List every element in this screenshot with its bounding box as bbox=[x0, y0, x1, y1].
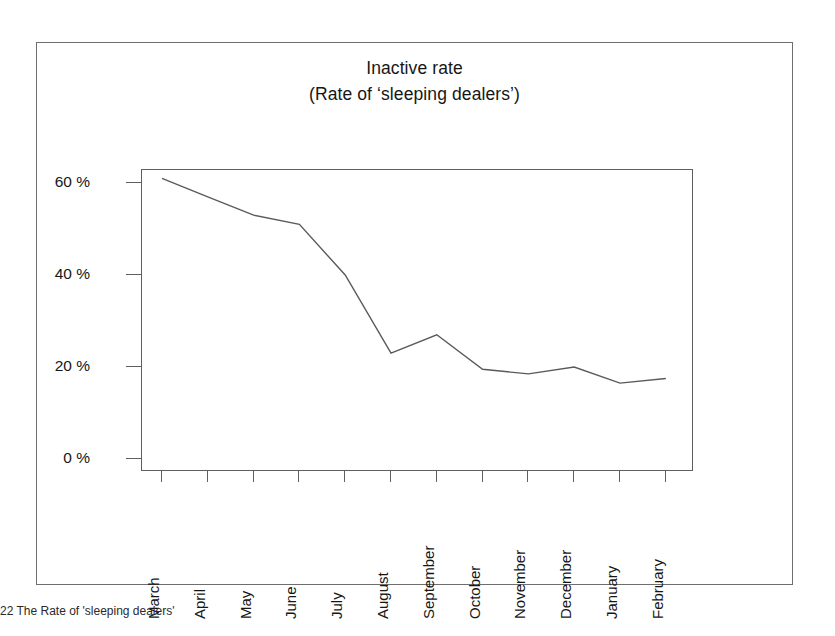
x-tick-mark bbox=[161, 471, 162, 482]
y-tick-mark bbox=[126, 366, 141, 367]
x-tick-mark bbox=[573, 471, 574, 482]
x-tick-mark bbox=[298, 471, 299, 482]
figure-caption: 22 The Rate of 'sleeping dealers' bbox=[0, 604, 835, 624]
y-tick-label: 40 % bbox=[55, 265, 90, 283]
chart-title-main: Inactive rate bbox=[36, 55, 793, 81]
y-tick-mark bbox=[126, 274, 141, 275]
x-tick-mark bbox=[619, 471, 620, 482]
chart-subtitle: (Rate of ‘sleeping dealers’) bbox=[36, 81, 793, 107]
x-tick-mark bbox=[344, 471, 345, 482]
x-tick-mark bbox=[390, 471, 391, 482]
y-tick-label: 0 % bbox=[63, 449, 90, 467]
plot-area bbox=[141, 169, 693, 471]
y-axis: 0 %20 %40 %60 % bbox=[40, 0, 122, 636]
x-tick-mark bbox=[482, 471, 483, 482]
y-tick-mark bbox=[126, 182, 141, 183]
x-tick-mark bbox=[207, 471, 208, 482]
x-tick-mark bbox=[527, 471, 528, 482]
x-tick-mark bbox=[665, 471, 666, 482]
x-tick-mark bbox=[253, 471, 254, 482]
y-tick-label: 20 % bbox=[55, 357, 90, 375]
y-tick-label: 60 % bbox=[55, 173, 90, 191]
x-tick-mark bbox=[436, 471, 437, 482]
chart-title: Inactive rate (Rate of ‘sleeping dealers… bbox=[36, 55, 793, 107]
line-series bbox=[142, 170, 694, 472]
y-tick-mark bbox=[126, 458, 141, 459]
